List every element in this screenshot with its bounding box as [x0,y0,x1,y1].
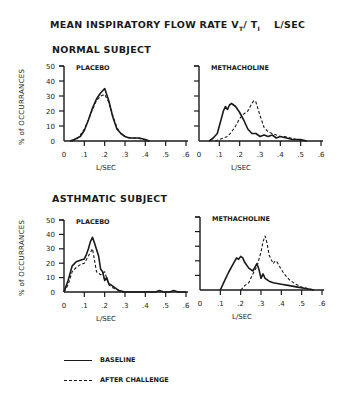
y-tick-label: 20 [46,260,55,268]
x-axis-label: L/SEC [96,315,116,323]
solid-line-swatch [64,360,92,361]
x-tick-label: .2 [237,300,244,308]
x-tick-label: .4 [142,151,149,159]
x-tick-label: .2 [236,151,243,159]
x-axis-label: L/SEC [96,164,116,172]
x-tick-label: .1 [81,302,88,310]
x-tick-label: .6 [183,302,190,310]
legend-baseline-label: BASELINE [100,356,136,364]
x-tick-label: .3 [257,151,264,159]
after-challenge-line [72,95,149,142]
baseline-line [209,104,307,142]
y-tick-label: 10 [46,274,55,282]
y-tick-label: 50 [46,217,55,225]
x-tick-label: .2 [101,151,108,159]
y-tick-label: 10 [46,123,55,131]
y-tick-label: 20 [46,108,55,116]
x-tick-label: 0 [62,302,66,310]
x-tick-label: .1 [217,300,224,308]
x-tick-label: .4 [277,151,284,159]
panel-title: METHACHOLINE [211,64,269,72]
chart-panel-2: 0.1.2.3.4.5.6L/SECMETHACHOLINE [194,64,325,172]
panel-title: PLACEBO [76,64,110,72]
after-challenge-line [241,236,314,290]
x-tick-label: .3 [122,302,129,310]
y-tick-label: 50 [46,63,55,71]
x-tick-label: .1 [81,151,88,159]
chart-panel-3: 010203040500.1.2.3.4.5.6L/SECPLACEBO [46,217,190,324]
x-tick-label: .2 [101,302,108,310]
x-tick-label: .5 [297,151,304,159]
dashed-line-swatch [64,380,92,381]
baseline-line [220,256,314,290]
panel-title: METHACHOLINE [212,215,270,223]
y-tick-label: 40 [46,231,55,239]
after-challenge-line [64,249,125,292]
x-tick-label: 0 [62,151,66,159]
x-tick-label: 0 [197,151,201,159]
panel-title: PLACEBO [76,218,110,226]
y-tick-label: 40 [46,78,55,86]
y-tick-label: 0 [51,289,55,297]
x-tick-label: .4 [142,302,149,310]
x-axis-label: L/SEC [232,313,252,321]
x-tick-label: 0 [198,300,202,308]
y-tick-label: 0 [51,138,55,146]
baseline-line [64,237,186,292]
x-tick-label: .4 [278,300,285,308]
x-tick-label: .5 [162,151,169,159]
x-tick-label: .6 [183,151,190,159]
x-tick-label: .5 [298,300,305,308]
chart-panel-4: 0.1.2.3.4.5.6L/SECMETHACHOLINE [195,215,326,321]
x-tick-label: .1 [216,151,223,159]
x-tick-label: .6 [318,151,325,159]
legend-after-challenge: AFTER CHALLENGE [64,376,169,384]
x-axis-label: L/SEC [231,164,251,172]
x-tick-label: .6 [319,300,326,308]
y-tick-label: 30 [46,245,55,253]
chart-panel-1: 010203040500.1.2.3.4.5.6L/SECPLACEBO [46,63,190,173]
x-tick-label: .3 [258,300,265,308]
legend-baseline: BASELINE [64,356,136,364]
y-tick-label: 30 [46,93,55,101]
charts-canvas: 010203040500.1.2.3.4.5.6L/SECPLACEBO0.1.… [0,0,342,408]
x-tick-label: .3 [122,151,129,159]
x-tick-label: .5 [162,302,169,310]
legend-after-challenge-label: AFTER CHALLENGE [100,376,169,384]
